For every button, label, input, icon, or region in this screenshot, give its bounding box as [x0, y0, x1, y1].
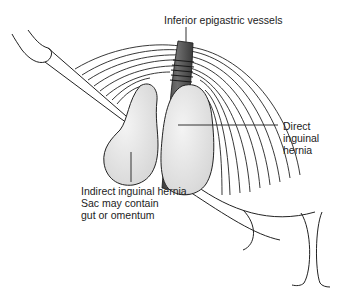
label-indirect-inguinal-hernia: Indirect inguinal hernia. Sac may contai… [81, 185, 190, 221]
label-direct-inguinal-hernia: Direct inguinal hernia [283, 120, 319, 156]
spermatic-cord [190, 185, 330, 287]
direct-hernia-sac [161, 85, 214, 195]
inguinal-band [12, 30, 135, 123]
label-inferior-epigastric-vessels: Inferior epigastric vessels [164, 14, 282, 26]
